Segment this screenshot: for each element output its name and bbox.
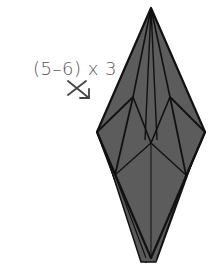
direction-arrow-icon — [68, 81, 89, 98]
origami-shape — [97, 8, 205, 262]
origami-model-diagram — [0, 0, 219, 278]
